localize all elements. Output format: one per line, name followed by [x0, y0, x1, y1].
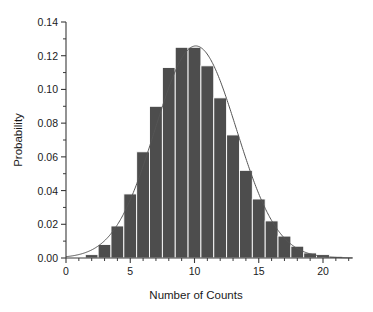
bar-14	[239, 170, 252, 258]
bar-3	[98, 245, 111, 258]
y-tick-label-0.10: 0.10	[38, 83, 59, 95]
bar-series	[85, 47, 342, 258]
y-axis-title: Probability	[12, 113, 24, 167]
y-tick-label-0.14: 0.14	[38, 16, 59, 28]
y-tick-label-0.06: 0.06	[38, 151, 59, 163]
chart-plot-area: 051015200.000.020.040.060.080.100.120.14…	[0, 0, 373, 312]
chart-figure: 051015200.000.020.040.060.080.100.120.14…	[0, 0, 373, 312]
y-tick-label-0.12: 0.12	[38, 50, 59, 62]
x-tick-label-5: 5	[127, 265, 133, 277]
x-tick-label-15: 15	[253, 265, 265, 277]
bar-10	[188, 47, 201, 258]
bar-15	[252, 199, 265, 258]
bar-7	[150, 106, 163, 258]
x-tick-label-0: 0	[63, 265, 69, 277]
bar-8	[162, 68, 175, 258]
x-axis-title: Number of Counts	[149, 289, 243, 301]
bar-6	[137, 152, 150, 258]
x-tick-label-10: 10	[189, 265, 201, 277]
bar-17	[278, 236, 291, 258]
bar-16	[265, 221, 278, 258]
x-tick-label-20: 20	[317, 265, 329, 277]
bar-5	[124, 194, 137, 258]
bar-12	[214, 98, 227, 258]
y-tick-label-0.08: 0.08	[38, 117, 59, 129]
bar-13	[227, 135, 240, 258]
y-tick-label-0.02: 0.02	[38, 218, 59, 230]
bar-9	[175, 47, 188, 258]
bar-11	[201, 66, 214, 258]
y-tick-label-0.04: 0.04	[38, 185, 59, 197]
y-tick-label-0.00: 0.00	[38, 252, 59, 264]
